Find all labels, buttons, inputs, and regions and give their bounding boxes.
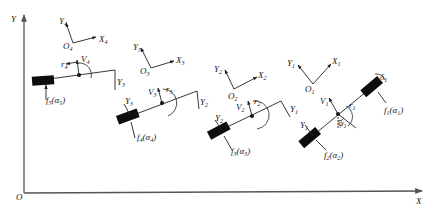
wheel-2 bbox=[298, 127, 321, 148]
v2-label: V2 bbox=[236, 102, 245, 113]
x1-axis-arrow bbox=[313, 64, 331, 84]
y3-segment-label: Y3 bbox=[125, 96, 133, 107]
y1-axis-arrow bbox=[298, 65, 313, 84]
v4-arrow bbox=[77, 60, 79, 75]
global-y-label: Y bbox=[11, 14, 17, 24]
x2-label: X2 bbox=[257, 70, 267, 81]
y1-label: Y1 bbox=[287, 58, 295, 69]
f1-label: f1(α1) bbox=[384, 105, 403, 116]
f3-label: f3(α3) bbox=[231, 146, 250, 157]
v3-arrow bbox=[158, 88, 162, 103]
segment-2: V2 r2 Y2 f3(α3) Y1 bbox=[207, 96, 298, 157]
y4-label: Y4 bbox=[59, 16, 67, 27]
r3-label: r3 bbox=[166, 84, 173, 95]
o1-label: O1 bbox=[305, 84, 315, 95]
v1-arrow bbox=[329, 98, 338, 114]
global-origin-label: O bbox=[16, 192, 23, 202]
hitch-y3-label: Y3 bbox=[117, 77, 125, 88]
o2-label: O2 bbox=[228, 91, 238, 102]
hitch-y1-label: Y1 bbox=[290, 104, 298, 115]
r2-label: r2 bbox=[254, 96, 261, 107]
y1-segment-label: Y1 bbox=[300, 120, 308, 131]
wheel-3 bbox=[207, 121, 231, 139]
y4-axis-arrow bbox=[66, 23, 73, 43]
local-frame-3: Y3 X3 O3 bbox=[133, 42, 185, 77]
segment-3: V3 r3 Y3 f4(α4) Y2 bbox=[116, 84, 208, 143]
y3-label: Y3 bbox=[133, 42, 141, 53]
segment-1: V1 r1 ψ1 Y1 f2(α2) f1(α1) δ1 bbox=[298, 72, 403, 161]
hitch-y2-label: Y2 bbox=[200, 97, 208, 108]
f5-label: f5(α5) bbox=[46, 95, 65, 106]
local-frame-1: Y1 X1 O1 bbox=[287, 56, 341, 95]
r4-arc bbox=[79, 63, 91, 78]
f2-label: f2(α2) bbox=[324, 150, 343, 161]
x3-label: X3 bbox=[175, 55, 185, 66]
x2-axis-arrow bbox=[234, 77, 257, 89]
y2-axis-arrow bbox=[225, 70, 234, 89]
x3-axis-arrow bbox=[151, 61, 174, 68]
multi-trailer-kinematic-diagram: Y X O Y4 X4 O4 Y3 X3 O3 Y2 X2 O2 Y1 X1 O… bbox=[0, 0, 432, 216]
y2-segment-label: Y2 bbox=[215, 113, 223, 124]
o4-label: O4 bbox=[63, 41, 73, 52]
delta1-label: δ1 bbox=[380, 72, 387, 83]
x4-axis-arrow bbox=[73, 37, 96, 43]
hitch-line-y2 bbox=[197, 91, 199, 109]
v2-arrow bbox=[248, 101, 252, 116]
segment-4: V4 r4 f5(α5) Y3 bbox=[32, 54, 125, 106]
global-x-axis bbox=[24, 191, 422, 193]
hitch-line-y1 bbox=[281, 101, 290, 117]
local-frame-4: Y4 X4 O4 bbox=[59, 16, 108, 52]
x4-label: X4 bbox=[98, 34, 108, 45]
segment-1-link bbox=[310, 87, 372, 138]
wheel-5 bbox=[32, 75, 55, 86]
local-frame-2: Y2 X2 O2 bbox=[214, 64, 267, 102]
x1-label: X1 bbox=[331, 56, 341, 67]
f1-arrow bbox=[378, 92, 386, 103]
f2-arrow bbox=[316, 140, 326, 150]
y2-label: Y2 bbox=[214, 64, 222, 75]
v1-label: V1 bbox=[320, 96, 329, 107]
f4-label: f4(α4) bbox=[137, 132, 156, 143]
y3-axis-arrow bbox=[141, 48, 151, 68]
f4-arrow bbox=[131, 122, 135, 138]
v3-label: V3 bbox=[148, 87, 157, 98]
o3-label: O3 bbox=[140, 66, 150, 77]
global-x-label: X bbox=[415, 196, 422, 206]
v4-label: V4 bbox=[81, 54, 90, 65]
r4-arrow bbox=[66, 62, 77, 64]
r4-label: r4 bbox=[61, 59, 68, 70]
